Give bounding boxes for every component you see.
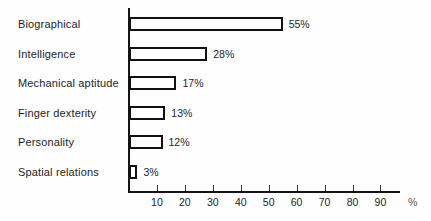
x-axis-line <box>128 191 400 193</box>
bar-row: Mechanical aptitude17% <box>0 68 431 98</box>
x-axis-tick-label: 40 <box>229 196 253 208</box>
x-axis-tick-label: 90 <box>368 196 392 208</box>
bar-value-label: 12% <box>169 135 190 149</box>
category-label: Spatial relations <box>18 157 99 187</box>
x-axis-tick <box>241 185 242 191</box>
x-axis-tick <box>269 185 270 191</box>
x-axis-tick <box>325 185 326 191</box>
bar-row: Finger dexterity13% <box>0 98 431 128</box>
x-axis-tick-label: 50 <box>257 196 281 208</box>
x-axis-tick <box>353 185 354 191</box>
axis-unit-label: % <box>408 196 417 208</box>
category-label: Mechanical aptitude <box>18 68 119 98</box>
bar-row: Intelligence28% <box>0 39 431 69</box>
x-axis-tick-label: 80 <box>341 196 365 208</box>
x-axis-tick <box>185 185 186 191</box>
category-label: Personality <box>18 127 74 157</box>
bar-row: Spatial relations3% <box>0 157 431 187</box>
bar-value-label: 3% <box>143 165 158 179</box>
x-axis-tick <box>297 185 298 191</box>
bar-row: Biographical55% <box>0 9 431 39</box>
bar-row: Personality12% <box>0 127 431 157</box>
category-label: Intelligence <box>18 39 75 69</box>
bar-value-label: 55% <box>289 17 310 31</box>
x-axis-tick <box>380 185 381 191</box>
bar <box>129 135 163 149</box>
x-axis-tick-label: 60 <box>285 196 309 208</box>
x-axis-tick-label: 20 <box>173 196 197 208</box>
bar-value-label: 13% <box>171 106 192 120</box>
x-axis-tick-label: 10 <box>145 196 169 208</box>
category-label: Finger dexterity <box>18 98 96 128</box>
bar <box>129 165 137 179</box>
bar-value-label: 17% <box>182 76 203 90</box>
x-axis-tick <box>157 185 158 191</box>
bar <box>129 17 283 31</box>
bar <box>129 76 176 90</box>
bar <box>129 47 207 61</box>
bar-value-label: 28% <box>213 47 234 61</box>
bar-chart: Biographical55%Intelligence28%Mechanical… <box>0 0 431 221</box>
category-label: Biographical <box>18 9 80 39</box>
plot-area: Biographical55%Intelligence28%Mechanical… <box>0 0 431 221</box>
x-axis-tick-label: 30 <box>201 196 225 208</box>
bar <box>129 106 165 120</box>
x-axis-tick-label: 70 <box>313 196 337 208</box>
x-axis-tick <box>213 185 214 191</box>
